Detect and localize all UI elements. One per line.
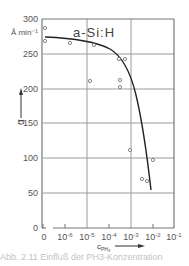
- svg-text:10-6: 10-6: [57, 232, 73, 242]
- svg-text:10-1: 10-1: [166, 232, 182, 242]
- svg-text:10-4: 10-4: [101, 232, 117, 242]
- grid: [43, 19, 174, 228]
- svg-text:10-5: 10-5: [79, 232, 95, 242]
- svg-text:100: 100: [23, 153, 38, 163]
- svg-text:300: 300: [23, 14, 38, 24]
- svg-text:10-2: 10-2: [145, 232, 161, 242]
- svg-text:50: 50: [28, 188, 38, 198]
- chart: 300 250 200 150 100 50 0 Å min⁻¹ α 0 10-…: [0, 0, 189, 266]
- svg-text:250: 250: [23, 49, 38, 59]
- svg-text:0: 0: [41, 232, 46, 242]
- svg-text:200: 200: [23, 84, 38, 94]
- series-label: a-Si:H: [73, 25, 115, 40]
- y-unit-label: Å min⁻¹: [11, 28, 38, 37]
- svg-text:10-3: 10-3: [123, 232, 139, 242]
- x-tick-labels: 0 10-6 10-5 10-4 10-3 10-2 10-1: [41, 232, 182, 242]
- figure-caption: Abb. 2.11 Einfluß der PH3-Konzentration: [0, 252, 189, 266]
- svg-text:α: α: [15, 119, 26, 125]
- fit-curve: [45, 37, 151, 190]
- svg-text:0: 0: [33, 223, 38, 233]
